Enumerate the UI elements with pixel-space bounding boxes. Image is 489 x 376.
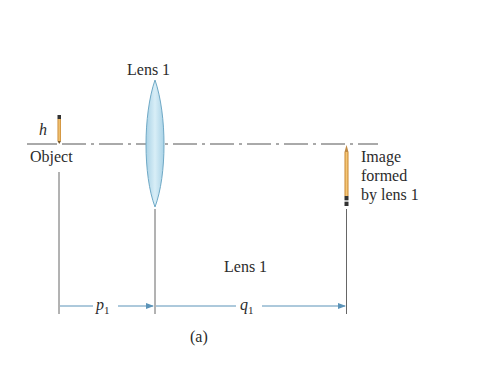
figure-caption: (a) (190, 328, 208, 346)
lens-1 (146, 80, 164, 207)
q-symbol: q (240, 296, 248, 313)
object-pencil (58, 115, 62, 144)
image-label-line1: Image (361, 148, 401, 166)
object-label: Object (30, 148, 73, 166)
height-symbol: h (39, 121, 47, 139)
q1-label: q1 (240, 296, 254, 315)
lens-bottom-label: Lens 1 (224, 258, 267, 276)
p-symbol: p (96, 296, 104, 313)
reference-lines (59, 172, 347, 314)
lens-title: Lens 1 (127, 61, 170, 79)
image-pencil (345, 145, 349, 206)
image-label-line3: by lens 1 (361, 186, 419, 204)
p-subscript: 1 (104, 304, 110, 316)
image-label-line2: formed (361, 167, 407, 185)
p1-label: p1 (96, 296, 110, 315)
q-subscript: 1 (248, 304, 254, 316)
